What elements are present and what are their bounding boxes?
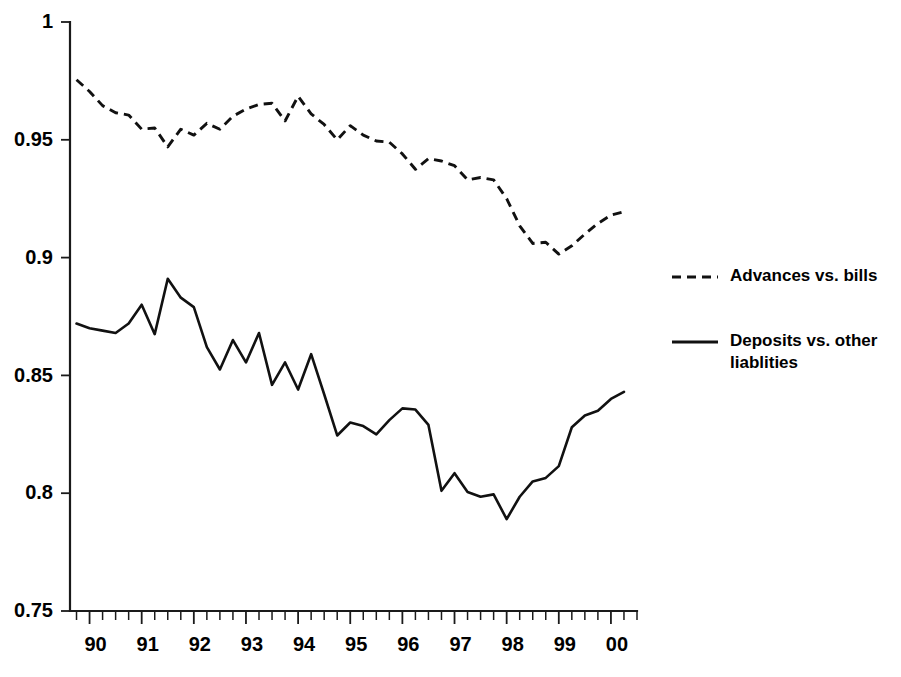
series-group <box>77 80 624 519</box>
y-axis-tick-label: 0.95 <box>14 128 53 150</box>
y-axis-tick-label: 0.85 <box>14 364 53 386</box>
x-axis-tick-label: 97 <box>449 633 471 655</box>
y-axis: 0.750.80.850.90.951 <box>14 10 70 621</box>
chart-legend: Advances vs. billsDeposits vs. otherliab… <box>672 266 878 372</box>
y-axis-tick-label: 0.75 <box>14 599 53 621</box>
series-line-1 <box>77 80 624 254</box>
x-axis-tick-label: 90 <box>84 633 106 655</box>
x-axis-tick-label: 96 <box>397 633 419 655</box>
line-chart: 0.750.80.850.90.951 90919293949596979899… <box>0 0 901 677</box>
legend-label-deposits-line1: Deposits vs. other <box>730 331 878 350</box>
x-axis-tick-label: 92 <box>189 633 211 655</box>
x-axis-tick-label: 00 <box>606 633 628 655</box>
x-axis-tick-label: 93 <box>241 633 263 655</box>
legend-label-deposits-line2: liablities <box>730 353 798 372</box>
x-axis-tick-label: 91 <box>137 633 159 655</box>
chart-container: 0.750.80.850.90.951 90919293949596979899… <box>0 0 901 677</box>
x-axis-tick-label: 95 <box>345 633 367 655</box>
x-axis-tick-label: 99 <box>554 633 576 655</box>
x-axis-tick-label: 94 <box>293 633 316 655</box>
y-axis-tick-label: 0.8 <box>25 481 53 503</box>
y-axis-tick-label: 0.9 <box>25 246 53 268</box>
x-axis: 9091929394959697989900 <box>70 611 637 655</box>
legend-label-advances: Advances vs. bills <box>730 266 877 285</box>
y-axis-tick-label: 1 <box>42 10 53 32</box>
x-axis-tick-label: 98 <box>502 633 524 655</box>
series-line-2 <box>77 279 624 519</box>
